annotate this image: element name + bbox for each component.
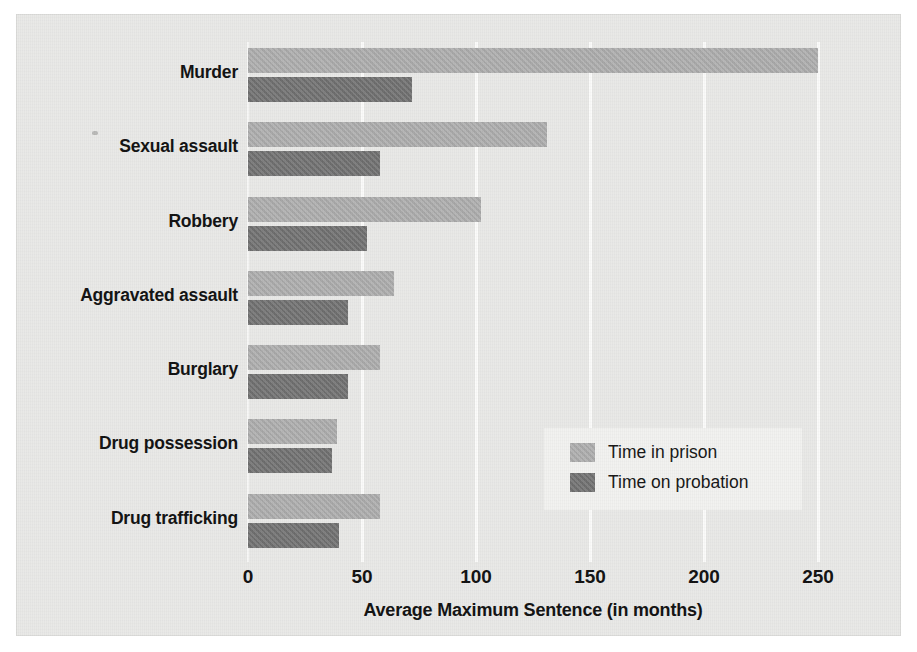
x-axis-tick-labels: 050100150200250 [248,566,818,592]
bar-probation [248,300,348,325]
bar-prison [248,345,380,370]
x-tick-label-200: 200 [688,566,720,588]
category-label: Aggravated assault [80,285,238,306]
x-axis-title: Average Maximum Sentence (in months) [248,600,818,621]
bar-probation [248,77,412,102]
bar-prison [248,271,394,296]
chart-plate: MurderSexual assaultRobberyAggravated as… [16,14,901,636]
x-tick-label-0: 0 [243,566,254,588]
category-label: Sexual assault [119,136,238,157]
chart-legend: Time in prison Time on probation [544,428,802,510]
bar-probation [248,151,380,176]
bar-group [248,116,818,190]
x-tick-label-250: 250 [802,566,834,588]
category-label: Murder [180,62,238,83]
category-label: Robbery [168,211,238,232]
category-label: Drug trafficking [111,508,238,529]
chart-figure: MurderSexual assaultRobberyAggravated as… [0,0,917,652]
bar-group [248,339,818,413]
legend-swatch-probation-icon [570,473,595,492]
x-tick-label-150: 150 [574,566,606,588]
legend-swatch-prison-icon [570,443,595,462]
bar-prison [248,419,337,444]
legend-item-prison: Time in prison [570,437,802,467]
legend-item-probation: Time on probation [570,467,802,497]
category-label: Drug possession [99,433,238,454]
bar-probation [248,448,332,473]
bar-group [248,191,818,265]
x-tick-label-50: 50 [351,566,372,588]
legend-label-probation: Time on probation [608,472,748,493]
bar-probation [248,226,367,251]
bar-prison [248,48,818,73]
bar-prison [248,122,547,147]
bar-prison [248,494,380,519]
category-axis-labels: MurderSexual assaultRobberyAggravated as… [16,42,238,562]
bar-probation [248,374,348,399]
x-tick-label-100: 100 [460,566,492,588]
category-label: Burglary [168,359,238,380]
bar-group [248,42,818,116]
bar-group [248,265,818,339]
bar-probation [248,523,339,548]
bar-prison [248,197,481,222]
legend-label-prison: Time in prison [608,442,717,463]
